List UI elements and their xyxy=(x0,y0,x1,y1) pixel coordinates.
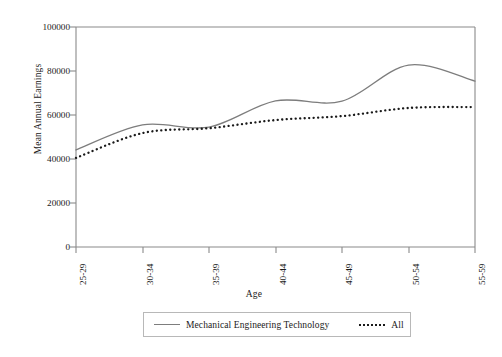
series-layer xyxy=(76,65,475,158)
legend-swatch-dotted-line-icon xyxy=(359,324,385,326)
legend-swatch-solid-line-icon xyxy=(154,324,180,325)
y-tick-marks xyxy=(70,27,76,247)
plot-area xyxy=(0,0,502,357)
legend-label-mechanical-engineering-technology: Mechanical Engineering Technology xyxy=(186,320,329,330)
series-line-all xyxy=(76,107,475,158)
chart-legend: Mechanical Engineering Technology All xyxy=(143,312,411,337)
x-tick-marks xyxy=(76,247,475,253)
legend-entry-mechanical-engineering-technology: Mechanical Engineering Technology xyxy=(154,313,329,336)
axis-frame xyxy=(76,27,475,247)
chart-container: Mean Annual Earnings 100000 80000 60000 … xyxy=(0,0,502,357)
legend-label-all: All xyxy=(391,320,403,330)
series-line-mechanical-engineering-technology xyxy=(76,65,475,150)
legend-entry-all: All xyxy=(359,313,403,336)
